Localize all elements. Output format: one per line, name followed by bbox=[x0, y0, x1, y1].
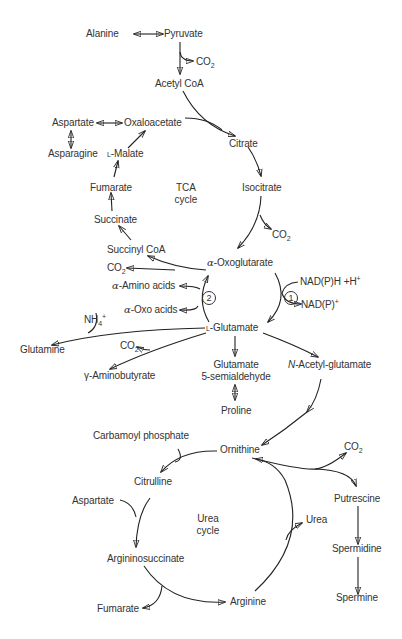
node-argininosuccinate: Argininosuccinate bbox=[107, 553, 184, 565]
node-fumarate-urea: Fumarate bbox=[97, 603, 139, 615]
node-succinate: Succinate bbox=[94, 214, 137, 226]
node-citrulline: Citrulline bbox=[134, 476, 172, 488]
urea-cycle-label: Urea cycle bbox=[197, 513, 220, 537]
node-carbamoyl-phosphate: Carbamoyl phosphate bbox=[93, 430, 189, 442]
oxo-acids-text: -Oxo acids bbox=[131, 304, 178, 315]
node-nh4: NH4+ bbox=[84, 314, 106, 326]
node-co2-isocitrate: CO2 bbox=[272, 229, 291, 241]
node-putrescine: Putrescine bbox=[334, 493, 380, 505]
node-co2-oxoglutarate: CO2 bbox=[107, 262, 126, 274]
alpha-prefix: α bbox=[207, 257, 214, 268]
urea-cycle-line1: Urea bbox=[197, 513, 220, 525]
node-co2-ornithine: CO2 bbox=[344, 441, 363, 453]
co2-subscript: 2 bbox=[122, 268, 126, 275]
node-fumarate-tca: Fumarate bbox=[90, 182, 132, 194]
malate-text: -Malate bbox=[111, 148, 144, 159]
glutamate-text: -Glutamate bbox=[210, 322, 258, 333]
node-aspartate-tca: Aspartate bbox=[52, 117, 94, 129]
node-proline: Proline bbox=[221, 405, 251, 417]
node-co2-gaba: CO2 bbox=[120, 340, 139, 352]
alpha-prefix: α bbox=[124, 304, 131, 315]
node-succinyl-coa: Succinyl CoA bbox=[107, 244, 165, 256]
tca-cycle-label: TCA cycle bbox=[175, 182, 198, 206]
node-isocitrate: Isocitrate bbox=[242, 182, 282, 194]
co2-subscript: 2 bbox=[135, 346, 139, 353]
nh4-superscript: + bbox=[102, 313, 106, 320]
node-glutamine: Glutamine bbox=[20, 344, 65, 356]
oxoglutarate-text: -Oxoglutarate bbox=[214, 257, 273, 268]
co2-subscript: 2 bbox=[287, 235, 291, 242]
co2-text: CO bbox=[107, 262, 122, 273]
node-spermine: Spermine bbox=[336, 592, 378, 604]
node-acetyl-coa: Acetyl CoA bbox=[155, 78, 203, 90]
nh-text: NH bbox=[84, 314, 98, 325]
co2-text-alt: CO bbox=[120, 340, 135, 351]
co2-text: CO bbox=[196, 56, 211, 67]
node-arginine: Arginine bbox=[230, 596, 266, 608]
node-alpha-oxoglutarate: α-Oxoglutarate bbox=[207, 257, 273, 269]
nh4-subscript: 4 bbox=[98, 320, 102, 327]
node-gaba: γ-Aminobutyrate bbox=[84, 370, 155, 382]
co2-text: CO bbox=[344, 441, 359, 452]
node-nadph: NAD(P)H +H+ bbox=[300, 276, 361, 288]
node-l-glutamate: L-Glutamate bbox=[206, 322, 258, 335]
node-spermidine: Spermidine bbox=[332, 543, 382, 555]
nadph-superscript: + bbox=[357, 275, 361, 282]
urea-cycle-line2: cycle bbox=[197, 525, 220, 537]
node-nadp: NAD(P)+ bbox=[301, 299, 339, 311]
node-urea: Urea bbox=[306, 514, 327, 526]
node-alanine: Alanine bbox=[86, 28, 119, 40]
amino-acids-text: -Amino acids bbox=[119, 280, 176, 291]
semialdehyde-line2: 5-semialdehyde bbox=[201, 371, 270, 383]
tca-cycle-line1: TCA bbox=[175, 182, 198, 194]
node-asparagine: Asparagine bbox=[48, 148, 98, 160]
node-citrate: Citrate bbox=[229, 138, 258, 150]
node-oxaloacetate: Oxaloacetate bbox=[124, 117, 182, 129]
node-n-acetyl-glutamate: N-Acetyl-glutamate bbox=[288, 359, 371, 371]
semialdehyde-line1: Glutamate bbox=[201, 359, 270, 371]
metabolic-pathway-diagram: Alanine Pyruvate CO2 Acetyl CoA Aspartat… bbox=[0, 0, 402, 639]
node-aspartate-urea: Aspartate bbox=[72, 495, 114, 507]
alpha-prefix: α bbox=[112, 280, 119, 291]
enzyme-1-badge: 1 bbox=[284, 291, 298, 305]
nadp-superscript: + bbox=[335, 298, 339, 305]
node-glutamate-semialdehyde: Glutamate 5-semialdehyde bbox=[201, 359, 270, 383]
n-acetyl-text: -Acetyl-glutamate bbox=[295, 359, 371, 370]
co2-text: CO bbox=[272, 229, 287, 240]
nadph-text: NAD(P)H +H bbox=[300, 276, 357, 287]
co2-subscript: 2 bbox=[211, 62, 215, 69]
node-ornithine: Ornithine bbox=[220, 444, 260, 456]
node-alpha-amino-acids: α-Amino acids bbox=[112, 280, 175, 292]
co2-subscript: 2 bbox=[359, 447, 363, 454]
node-l-malate: L-Malate bbox=[107, 148, 143, 161]
tca-cycle-line2: cycle bbox=[175, 194, 198, 206]
node-pyruvate: Pyruvate bbox=[164, 28, 203, 40]
node-co2-pyruvate: CO2 bbox=[196, 56, 215, 68]
enzyme-2-badge: 2 bbox=[202, 291, 216, 305]
node-alpha-oxo-acids: α-Oxo acids bbox=[124, 304, 177, 316]
nadp-text: NAD(P) bbox=[301, 299, 335, 310]
